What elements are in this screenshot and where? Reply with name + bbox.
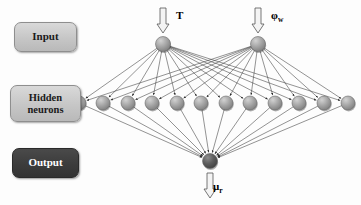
hidden-neuron xyxy=(317,96,331,110)
signal-sub-mu: r xyxy=(219,186,222,195)
edge-input-hidden xyxy=(86,44,163,98)
hidden-neuron xyxy=(243,96,257,110)
signal-label-mu-r: μr xyxy=(213,180,223,195)
signal-symbol-T: T xyxy=(176,9,183,21)
layer-label-hidden-line1: Hidden xyxy=(29,92,62,103)
edge-input-hidden xyxy=(111,44,258,100)
hidden-neuron xyxy=(194,96,208,110)
signal-symbol-phi: φ xyxy=(271,9,278,21)
input-neuron xyxy=(251,37,266,52)
layer-label-output-text: Output xyxy=(28,157,62,169)
input-arrow-T xyxy=(157,8,169,33)
edge-input-hidden xyxy=(207,44,258,97)
layer-label-input: Input xyxy=(14,22,77,52)
layer-label-hidden-line2: neurons xyxy=(28,104,64,115)
layer-label-input-text: Input xyxy=(32,31,58,43)
hidden-neuron xyxy=(145,96,159,110)
edge-input-hidden xyxy=(163,44,291,100)
edge-hidden-output xyxy=(218,103,324,157)
signal-label-phi-w: φw xyxy=(271,9,283,24)
edge-hidden-output xyxy=(217,103,299,156)
input-arrow-phi xyxy=(252,8,264,33)
layer-label-hidden: Hidden neurons xyxy=(10,85,81,122)
edge-hidden-output xyxy=(79,103,202,157)
hidden-neuron xyxy=(341,96,355,110)
hidden-neuron xyxy=(121,96,135,110)
hidden-neuron xyxy=(292,96,306,110)
edge-input-hidden xyxy=(163,44,220,97)
input-neuron xyxy=(156,37,171,52)
output-layer-nodes xyxy=(203,154,219,170)
hidden-neuron xyxy=(268,96,282,110)
output-neuron xyxy=(203,154,218,169)
signal-label-temperature: T xyxy=(176,9,183,24)
edge-input-hidden xyxy=(184,44,258,98)
edge-hidden-output xyxy=(218,103,348,158)
signal-sub-phi: w xyxy=(278,15,283,24)
hidden-neuron xyxy=(170,96,184,110)
edges-input-to-hidden xyxy=(86,44,341,101)
hidden-neuron xyxy=(96,96,110,110)
diagram-canvas: Input Hidden neurons Output T φw μr xyxy=(0,0,361,205)
edges-hidden-to-output xyxy=(79,103,348,158)
hidden-neuron xyxy=(219,96,233,110)
edge-input-hidden xyxy=(258,44,294,96)
layer-label-output: Output xyxy=(12,148,79,178)
edge-input-hidden xyxy=(163,44,268,99)
